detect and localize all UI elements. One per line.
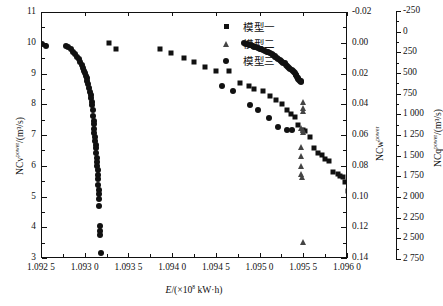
data-point-square bbox=[181, 56, 186, 61]
x-top-tick bbox=[172, 12, 173, 16]
data-point-circle bbox=[247, 102, 253, 108]
y-right-outer-minor-tick bbox=[396, 42, 399, 43]
data-point-square bbox=[346, 189, 347, 194]
x-top-tick bbox=[85, 12, 86, 16]
data-point-triangle bbox=[298, 153, 304, 159]
x-tick-label: 1.092 5 bbox=[27, 263, 55, 272]
data-point-square bbox=[192, 60, 197, 65]
x-tick-label: 1.093 5 bbox=[114, 263, 142, 272]
y-left-minor-tick bbox=[42, 243, 45, 244]
x-minor-tick bbox=[107, 254, 108, 258]
x-major-tick bbox=[128, 253, 129, 258]
y-right-inner-major-tick bbox=[341, 43, 347, 44]
y-left-tick-label: 9 bbox=[31, 69, 36, 78]
y-right-inner-minor-tick bbox=[343, 58, 347, 59]
data-point-triangle bbox=[299, 174, 305, 180]
y-right-inner-tick-label: 0.14 bbox=[352, 253, 368, 262]
data-point-square bbox=[107, 41, 112, 46]
legend-item-model-2: 模型二 bbox=[218, 35, 336, 52]
y-left-minor-tick bbox=[42, 181, 45, 182]
data-point-circle bbox=[266, 115, 272, 121]
y-left-minor-tick bbox=[42, 212, 45, 213]
y-right-outer-major-tick bbox=[396, 176, 401, 177]
y-left-major-tick bbox=[42, 197, 47, 198]
x-major-tick bbox=[85, 253, 86, 258]
y-right-outer-major-tick bbox=[396, 114, 401, 115]
y-left-major-tick bbox=[42, 258, 47, 259]
y-right-outer-major-tick bbox=[396, 52, 401, 53]
x-top-tick bbox=[128, 12, 129, 16]
y-left-minor-tick bbox=[42, 58, 45, 59]
data-point-square bbox=[311, 145, 316, 150]
legend-label: 模型三 bbox=[243, 53, 275, 68]
y-right-inner-tick-label: 0.10 bbox=[352, 192, 368, 201]
y-left-tick-label: 11 bbox=[27, 7, 36, 16]
x-major-tick bbox=[216, 253, 217, 258]
y-right-outer-minor-tick bbox=[396, 187, 399, 188]
data-point-circle bbox=[90, 107, 96, 113]
x-axis-title: E/(×108 kW·h) bbox=[166, 284, 223, 295]
data-point-circle bbox=[219, 83, 225, 89]
y-right-outer-major-tick bbox=[396, 32, 401, 33]
x-tick-label: 1.094 0 bbox=[158, 263, 186, 272]
y-right-outer-tick-label: 250 bbox=[403, 48, 417, 57]
x-minor-tick bbox=[325, 254, 326, 258]
data-point-circle bbox=[97, 232, 103, 238]
y-right-outer-minor-tick bbox=[396, 145, 399, 146]
y-right-inner-minor-tick bbox=[343, 212, 347, 213]
y-right-outer-tick-label: 2 750 bbox=[403, 254, 424, 263]
triangle-marker-icon bbox=[218, 41, 234, 47]
x-tick-label: 1.094 5 bbox=[202, 263, 230, 272]
y-right-outer-minor-tick bbox=[396, 166, 399, 167]
y-left-minor-tick bbox=[42, 120, 45, 121]
data-point-square bbox=[268, 94, 273, 99]
data-point-circle bbox=[275, 124, 281, 130]
data-point-triangle bbox=[300, 239, 306, 245]
data-point-square bbox=[227, 69, 232, 74]
x-top-tick bbox=[216, 12, 217, 16]
y-right-inner-tick-label: 0.06 bbox=[352, 130, 368, 139]
y-right-inner-tick-label: 0.02 bbox=[352, 69, 368, 78]
y-right-outer-major-tick bbox=[396, 73, 401, 74]
y-right-inner-minor-tick bbox=[343, 89, 347, 90]
x-major-tick bbox=[303, 253, 304, 258]
y-right-outer-tick-label: 1 000 bbox=[403, 110, 424, 119]
data-point-triangle bbox=[300, 99, 306, 105]
data-point-square bbox=[326, 159, 331, 164]
data-point-circle bbox=[298, 78, 304, 84]
y-right-inner-major-tick bbox=[341, 12, 347, 13]
y-right-outer-tick-label: -250 bbox=[403, 6, 420, 15]
y-right-inner-minor-tick bbox=[343, 181, 347, 182]
y-left-major-tick bbox=[42, 135, 47, 136]
y-right-inner-axis-title: NCwpower bbox=[374, 127, 385, 161]
data-point-square bbox=[279, 101, 284, 106]
data-point-square bbox=[274, 97, 279, 102]
y-right-inner-major-tick bbox=[341, 166, 347, 167]
data-point-triangle bbox=[300, 129, 306, 135]
y-right-outer-minor-tick bbox=[396, 125, 399, 126]
data-point-square bbox=[261, 88, 266, 93]
data-point-triangle bbox=[298, 163, 304, 169]
x-tick-label: 1.093 0 bbox=[71, 263, 99, 272]
y-right-inner-major-tick bbox=[341, 104, 347, 105]
data-point-square bbox=[251, 87, 256, 92]
x-tick-label: 1.096 0 bbox=[333, 263, 361, 272]
legend-item-model-3: 模型三 bbox=[218, 52, 336, 69]
y-right-inner-minor-tick bbox=[343, 243, 347, 244]
y-left-tick-label: 6 bbox=[31, 161, 36, 170]
data-point-circle bbox=[98, 250, 104, 256]
data-point-circle bbox=[255, 107, 261, 113]
y-left-tick-label: 7 bbox=[31, 130, 36, 139]
y-right-outer-major-tick bbox=[396, 94, 401, 95]
legend-label: 模型一 bbox=[243, 19, 275, 34]
data-point-square bbox=[203, 64, 208, 69]
y-right-outer-minor-tick bbox=[396, 21, 399, 22]
legend-label: 模型二 bbox=[243, 36, 275, 51]
data-point-square bbox=[237, 81, 242, 86]
x-minor-tick bbox=[194, 254, 195, 258]
y-right-outer-tick-label: 1 250 bbox=[403, 130, 424, 139]
y-right-inner-major-tick bbox=[341, 258, 347, 259]
data-point-circle bbox=[43, 43, 49, 49]
data-point-circle bbox=[96, 196, 102, 202]
